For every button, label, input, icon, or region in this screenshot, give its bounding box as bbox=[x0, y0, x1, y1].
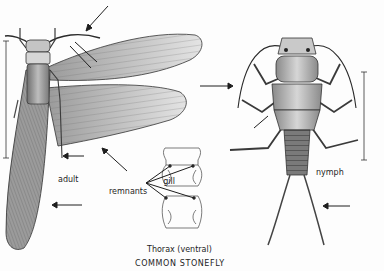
figure-title: COMMON STONEFLY bbox=[135, 260, 225, 268]
illustration-art bbox=[0, 0, 384, 271]
thorax-ventral-inset bbox=[146, 148, 202, 228]
adult-scale-bar bbox=[3, 41, 9, 158]
adult-stonefly bbox=[3, 6, 202, 249]
label-nymph: nymph bbox=[316, 169, 344, 177]
nymph-scale-bar bbox=[361, 72, 367, 160]
label-gill: gill bbox=[139, 178, 175, 186]
label-remnants: remnants bbox=[109, 188, 145, 196]
nymph-stonefly bbox=[200, 38, 367, 245]
label-thorax-ventral: Thorax (ventral) bbox=[147, 246, 212, 254]
label-adult: adult bbox=[58, 176, 78, 184]
stonefly-illustration: adult gill remnants nymph Thorax (ventra… bbox=[0, 0, 384, 271]
